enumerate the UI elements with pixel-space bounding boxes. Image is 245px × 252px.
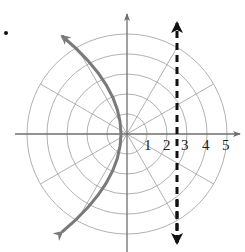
axis-label-5: 5 [222,138,230,153]
axis-label-3: 3 [181,138,189,153]
axis-label-1: 1 [144,138,152,153]
axis-label-4: 4 [202,138,210,153]
polar-graph [0,0,245,252]
axes [15,14,240,252]
axis-label-2: 2 [163,138,171,153]
marker-dot [4,31,8,35]
